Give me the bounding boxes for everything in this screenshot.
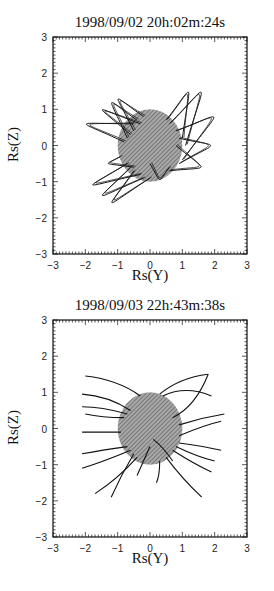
field-line bbox=[166, 457, 202, 497]
field-line bbox=[82, 394, 131, 410]
y-tick-label: 1 bbox=[41, 387, 47, 398]
y-axis-label: Rs(Z) bbox=[5, 410, 22, 445]
field-line bbox=[160, 374, 209, 394]
field-line bbox=[179, 443, 221, 450]
y-tick-label: 3 bbox=[41, 315, 47, 326]
x-axis-label: Rs(Y) bbox=[0, 550, 274, 567]
plot-area: −3−2−101233210−1−2−3 bbox=[0, 0, 274, 591]
field-line bbox=[95, 457, 137, 493]
field-line bbox=[82, 407, 127, 414]
panel-bottom: 1998/09/03 22h:43m:38s −3−2−101233210−1−… bbox=[0, 0, 274, 591]
y-tick-label: 2 bbox=[41, 351, 47, 362]
field-line bbox=[111, 454, 134, 497]
y-tick-label: −2 bbox=[36, 496, 48, 507]
field-line bbox=[163, 391, 212, 396]
field-line bbox=[85, 376, 140, 396]
y-tick-label: −3 bbox=[36, 532, 48, 543]
field-line bbox=[85, 414, 124, 418]
y-tick-label: 0 bbox=[41, 424, 47, 435]
field-line bbox=[179, 414, 224, 425]
y-tick-label: −1 bbox=[36, 460, 48, 471]
sun-disk bbox=[118, 392, 183, 464]
field-line bbox=[176, 447, 215, 461]
field-line bbox=[156, 461, 159, 483]
field-line bbox=[82, 447, 127, 454]
